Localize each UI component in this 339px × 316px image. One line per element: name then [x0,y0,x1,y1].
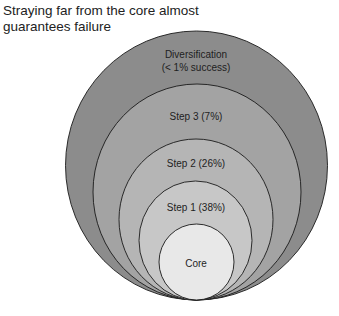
concentric-circles-diagram: Diversification (< 1% success) Step 3 (7… [0,0,339,316]
label-step-1: Step 1 (38%) [167,202,225,213]
label-step-2: Step 2 (26%) [167,158,225,169]
label-step-3: Step 3 (7%) [170,111,223,122]
label-diversification-success: (< 1% success) [162,62,231,73]
label-core: Core [185,258,207,269]
label-diversification: Diversification [165,49,227,60]
